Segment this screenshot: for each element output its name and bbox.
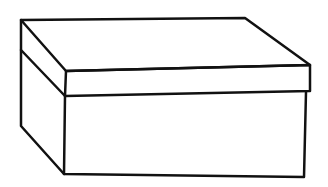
box-left-side (21, 50, 64, 174)
lid-top-face (21, 18, 310, 71)
box-front-face (64, 92, 306, 177)
lid-front-band (65, 65, 310, 96)
box-drawing (0, 0, 328, 187)
lid-left-band (21, 20, 65, 96)
